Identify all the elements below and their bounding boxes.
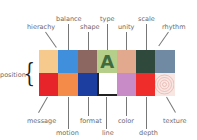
label-position: position xyxy=(0,72,26,79)
label-depth: depth xyxy=(139,130,158,137)
label-hierachy: hierachy xyxy=(27,24,55,31)
cell-texture xyxy=(155,73,174,96)
cell-rhythm xyxy=(155,50,174,73)
connector-scale xyxy=(146,24,147,50)
label-texture: texture xyxy=(163,118,186,125)
cell-format xyxy=(78,73,97,96)
brace-icon: { xyxy=(23,60,35,86)
label-motion: motion xyxy=(56,130,79,137)
label-type: type xyxy=(100,16,115,23)
cell-scale xyxy=(136,50,155,73)
cell-message xyxy=(39,73,58,96)
label-rhythm: rhythm xyxy=(162,24,186,31)
connector-format xyxy=(88,97,89,116)
label-unity: unity xyxy=(118,24,134,31)
cell-motion xyxy=(58,73,77,96)
label-format: format xyxy=(80,118,102,125)
connector-depth xyxy=(146,97,147,129)
cell-line xyxy=(97,73,116,96)
label-color: color xyxy=(118,118,134,125)
cell-type: A xyxy=(97,50,116,73)
connector-motion xyxy=(68,97,69,129)
connector-type xyxy=(107,24,108,50)
cell-hierachy xyxy=(39,50,58,73)
label-balance: balance xyxy=(56,16,82,23)
connector-shape xyxy=(88,32,89,50)
connector-message xyxy=(38,97,48,113)
cell-color xyxy=(117,73,136,96)
type-glyph: A xyxy=(100,53,114,71)
connector-hierachy xyxy=(45,32,57,48)
cell-depth xyxy=(136,73,155,96)
connector-rhythm xyxy=(158,32,168,46)
connector-balance xyxy=(68,24,69,50)
label-scale: scale xyxy=(138,16,155,23)
connector-unity xyxy=(126,32,127,50)
connector-line xyxy=(106,97,107,129)
label-line: line xyxy=(102,130,114,137)
cell-shape xyxy=(78,50,97,73)
label-message: message xyxy=(27,118,56,125)
cell-unity xyxy=(117,50,136,73)
connector-texture xyxy=(166,97,176,113)
connector-color xyxy=(126,97,127,116)
cell-balance xyxy=(58,50,77,73)
label-shape: shape xyxy=(80,24,100,31)
texture-swirl-icon xyxy=(155,73,174,96)
